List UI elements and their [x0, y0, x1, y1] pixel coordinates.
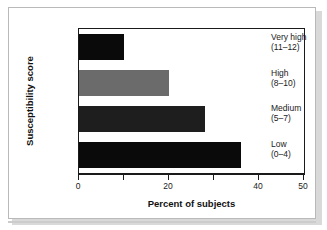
y-axis-tick-label-high: High (8–10)	[271, 68, 327, 88]
x-axis-tick-label-20: 20	[163, 181, 172, 191]
x-axis-tick-label-40: 40	[253, 181, 262, 191]
figure-bottom-rule	[8, 221, 316, 223]
bar-low	[79, 142, 241, 168]
bar-fill	[79, 34, 124, 60]
bar-high	[79, 70, 169, 96]
x-axis-tick-0	[78, 174, 79, 180]
y-axis-tick-label-low-name: Low	[271, 139, 327, 149]
bar-fill	[79, 142, 241, 168]
y-axis-tick-label-medium-range: (5–7)	[271, 113, 327, 123]
y-axis-title: Susceptibility score	[22, 28, 36, 174]
bar-fill	[79, 70, 169, 96]
x-axis-tick-50	[303, 174, 304, 180]
x-axis-tick-10	[123, 174, 124, 180]
x-axis-tick-label-50: 50	[298, 181, 307, 191]
chart-figure: Susceptibility score Very high (11–12) H…	[0, 0, 327, 230]
x-axis-line	[78, 174, 305, 175]
bar-fill	[79, 106, 205, 132]
y-axis-tick-label-high-name: High	[271, 68, 327, 78]
x-axis-tick-40	[258, 174, 259, 180]
y-axis-tick-label-low: Low (0–4)	[271, 139, 327, 159]
bar-very-high	[79, 34, 124, 60]
y-axis-tick-label-high-range: (8–10)	[271, 78, 327, 88]
y-axis-tick-label-medium: Medium (5–7)	[271, 103, 327, 123]
x-axis-title-label: Percent of subjects	[78, 198, 305, 209]
y-axis-tick-label-low-range: (0–4)	[271, 149, 327, 159]
y-axis-tick-label-medium-name: Medium	[271, 103, 327, 113]
y-axis-title-label: Susceptibility score	[24, 28, 35, 174]
x-axis-tick-label-0: 0	[76, 181, 81, 191]
y-axis-tick-label-very-high: Very high (11–12)	[271, 32, 327, 52]
bar-medium	[79, 106, 205, 132]
x-axis-tick-20	[168, 174, 169, 180]
x-axis-tick-30	[213, 174, 214, 180]
y-axis-tick-label-very-high-range: (11–12)	[271, 42, 327, 52]
y-axis-tick-label-very-high-name: Very high	[271, 32, 327, 42]
